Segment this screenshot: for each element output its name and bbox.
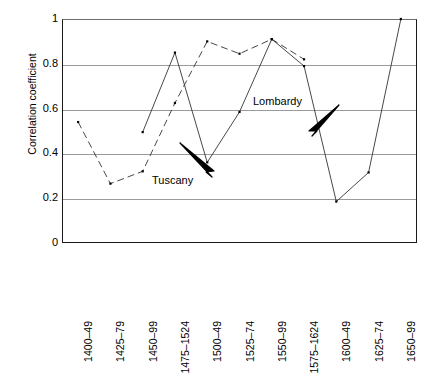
- data-point-marker: [303, 65, 305, 67]
- data-point-marker: [400, 18, 402, 20]
- data-point-marker: [77, 121, 79, 123]
- data-point-marker: [206, 40, 208, 42]
- data-point-marker: [142, 131, 144, 133]
- x-tick-label: 1525–74: [244, 321, 256, 377]
- series-line-tuscany: [77, 38, 305, 185]
- y-tick-label: 1: [12, 13, 58, 24]
- annotation-arrows: [180, 105, 339, 177]
- data-point-marker: [335, 200, 337, 202]
- data-point-marker: [206, 161, 208, 163]
- data-point-marker: [174, 102, 176, 104]
- y-tick-label: 0.8: [12, 58, 58, 69]
- x-tick-label: 1625–74: [373, 321, 385, 377]
- x-tick-label: 1400–49: [82, 321, 94, 377]
- x-tick-label: 1550–99: [276, 321, 288, 377]
- data-point-marker: [142, 170, 144, 172]
- annotation-label-lombardy: Lombardy: [253, 95, 302, 107]
- series-overlay: [62, 19, 417, 243]
- data-point-marker: [174, 52, 176, 54]
- polyline-tuscany: [78, 39, 304, 183]
- x-axis-tick-labels: 1400–491425–791450–991475–15241500–49152…: [62, 243, 417, 324]
- y-tick-label: 0.4: [12, 147, 58, 158]
- x-tick-label: 1475–1524: [179, 321, 191, 377]
- y-tick-label: 0.6: [12, 103, 58, 114]
- x-tick-label: 1500–49: [211, 321, 223, 377]
- data-point-marker: [109, 183, 111, 185]
- y-tick-label: 0.2: [12, 192, 58, 203]
- data-point-marker: [367, 171, 369, 173]
- x-tick-label: 1600–49: [340, 321, 352, 377]
- annotation-label-tuscany: Tuscany: [152, 174, 193, 186]
- x-tick-label: 1575–1624: [308, 321, 320, 377]
- x-tick-label: 1450–99: [147, 321, 159, 377]
- data-point-marker: [238, 53, 240, 55]
- y-tick-label: 0: [12, 237, 58, 248]
- arrow-lombardy-icon: [309, 105, 339, 136]
- y-axis-tick-labels: 1 0.8 0.6 0.4 0.2 0: [8, 0, 58, 324]
- data-point-marker: [303, 58, 305, 60]
- x-tick-label: 1425–79: [114, 321, 126, 377]
- data-point-marker: [238, 111, 240, 113]
- x-tick-label: 1650–99: [405, 321, 417, 377]
- data-point-marker: [271, 38, 273, 40]
